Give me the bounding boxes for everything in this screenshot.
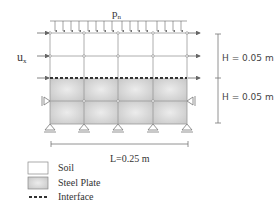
model-diagram: pn ux H = 0.05 m H = 0.05 m: [0, 0, 277, 207]
roller-support-right: [187, 96, 195, 106]
legend-label-steel-plate: Steel Plate: [58, 177, 101, 188]
legend-swatch-soil: [28, 162, 48, 174]
pin-supports-bottom: [44, 124, 193, 132]
height-label-bottom: H = 0.05 m: [222, 92, 274, 102]
displacement-label: ux: [17, 50, 27, 65]
load-label: pn: [112, 7, 122, 21]
roller-support-left: [42, 96, 50, 106]
legend-label-soil: Soil: [58, 162, 74, 173]
distributed-load-arrows: [50, 21, 187, 31]
legend: Soil Steel Plate Interface: [28, 162, 101, 202]
height-label-top: H = 0.05 m: [222, 53, 274, 63]
length-label: L=0.25 m: [110, 153, 150, 164]
height-dimension: [215, 34, 221, 123]
displacement-arrows-left: [37, 33, 49, 78]
legend-swatch-steel-plate: [28, 177, 48, 189]
length-dimension: [51, 141, 188, 147]
legend-label-interface: Interface: [58, 191, 94, 202]
displacement-arrows-right: [188, 33, 200, 78]
